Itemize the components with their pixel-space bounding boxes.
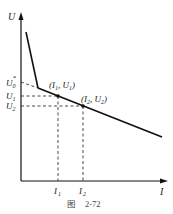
svg-text:1: 1 [13,96,16,102]
steep-segment [26,32,38,88]
u0-extrapolation-dash [21,82,38,88]
point-1-label: (I1, U1) [49,80,75,91]
x-axis-arrow-icon [160,179,168,184]
figure-caption: 图 2-72 [67,199,101,209]
i1-label: I 1 [53,186,61,197]
volt-ampere-diagram: U I U 0 * U 1 U 2 I 1 I 2 (I1, U1) (I2, … [0,0,173,214]
x-axis-label: I [159,186,164,197]
svg-text:0: 0 [13,83,16,89]
i2-label: I 2 [78,186,86,197]
point-2 [81,104,85,108]
point-1 [56,94,60,98]
characteristic-curve [26,32,162,137]
guide-lines [21,82,83,181]
svg-text:1: 1 [58,191,61,197]
y-axis-label: U [8,11,16,22]
u2-label: U 2 [6,101,16,112]
svg-text:*: * [13,74,17,82]
svg-text:(I2, U2): (I2, U2) [81,94,107,105]
svg-text:2: 2 [83,191,86,197]
svg-text:2: 2 [13,106,16,112]
svg-text:(I1, U1): (I1, U1) [49,80,75,91]
y-axis-arrow-icon [19,12,24,20]
point-2-label: (I2, U2) [81,94,107,105]
u0-star-label: U 0 * [6,74,17,89]
